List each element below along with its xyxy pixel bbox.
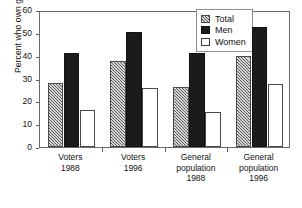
bar-total-group-4: [236, 56, 252, 147]
bar-women-group-4: [268, 84, 284, 147]
y-tick-label: 50: [23, 28, 32, 38]
legend-label-men: Men: [215, 25, 233, 35]
bar-men-group-2: [126, 32, 142, 147]
bar-women-group-3: [205, 112, 221, 147]
bar-men-group-4: [252, 27, 268, 147]
bar-men-group-3: [189, 53, 205, 147]
y-tick-label: 10: [23, 119, 32, 129]
y-tick-label: 40: [23, 51, 32, 61]
legend-label-women: Women: [215, 37, 246, 47]
legend-item-total: Total: [201, 13, 246, 25]
legend-item-men: Men: [201, 25, 246, 37]
legend-swatch-men-icon: [201, 26, 210, 34]
bar-women-group-1: [80, 110, 96, 147]
x-tick-mark: [227, 148, 228, 152]
legend-swatch-total-icon: [201, 15, 210, 23]
bar-total-group-2: [110, 61, 126, 147]
chart-legend: Total Men Women: [196, 9, 253, 52]
bar-men-group-1: [64, 53, 80, 147]
x-tick-mark: [165, 148, 166, 152]
y-tick-label: 0: [27, 142, 32, 152]
y-tick-label: 60: [23, 5, 32, 15]
y-tick-label: 20: [23, 96, 32, 106]
legend-label-total: Total: [215, 14, 234, 24]
bar-women-group-2: [142, 88, 158, 147]
bar-chart: Percent who own guns 0102030405060 Voter…: [0, 0, 302, 208]
plot-area: [39, 11, 290, 148]
x-tick-mark: [102, 148, 103, 152]
y-tick-mark: [36, 148, 40, 149]
legend-item-women: Women: [201, 36, 246, 48]
bar-total-group-3: [173, 87, 189, 148]
y-axis-title: Percent who own guns: [13, 0, 23, 99]
y-tick-label: 30: [23, 74, 32, 84]
bar-total-group-1: [48, 83, 64, 147]
legend-swatch-women-icon: [201, 38, 210, 46]
x-axis-group-label-4: General population 1996: [219, 152, 299, 184]
